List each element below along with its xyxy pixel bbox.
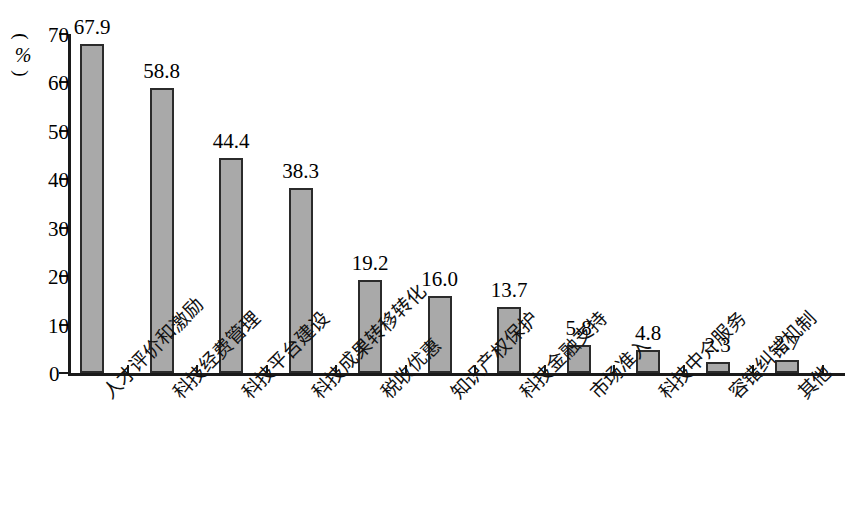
y-axis-tick-label: 0	[49, 364, 52, 385]
y-axis-tick-label: 40	[48, 170, 52, 191]
bar-chart-figure: ( % ) 010203040506070 67.958.844.438.319…	[0, 0, 848, 517]
x-axis-category-label: 人才评价和激励	[99, 389, 112, 402]
x-axis-category-label: 知识产权保护	[447, 389, 460, 402]
y-axis-tick-label: 10	[48, 315, 52, 336]
bar	[80, 44, 104, 373]
bar-value-label: 44.4	[213, 131, 250, 152]
bar-value-label: 19.2	[352, 253, 389, 274]
x-axis-category-label: 其他	[794, 389, 807, 402]
bar	[706, 362, 730, 373]
bar-value-label: 67.9	[74, 17, 111, 38]
x-axis-category-label: 科技经费管理	[169, 389, 182, 402]
x-axis-category-label: 容错纠错机制	[725, 389, 738, 402]
bar-value-label: 16.0	[421, 269, 458, 290]
bar-value-label: 38.3	[282, 161, 319, 182]
bar-value-label: 13.7	[491, 280, 528, 301]
bar-value-label: 58.8	[143, 61, 180, 82]
x-axis-category-label: 市场准入	[586, 389, 599, 402]
y-axis-tick-label: 30	[48, 218, 52, 239]
y-axis-label-percent-symbol: %	[15, 45, 32, 65]
y-axis-label: ( % )	[6, 18, 40, 92]
y-axis-label-open-paren: (	[15, 33, 30, 39]
y-axis-tick-label: 20	[48, 267, 52, 288]
x-axis-category-label: 科技成果转移转化	[308, 389, 321, 402]
y-axis-tick-label: 60	[48, 73, 52, 94]
y-axis-tick	[59, 372, 68, 374]
y-axis-tick-label: 70	[48, 25, 52, 46]
x-axis-category-label: 科技平台建设	[238, 389, 251, 402]
x-axis-category-label: 科技金融支持	[516, 389, 529, 402]
y-axis-label-close-paren: )	[15, 70, 30, 76]
x-axis-category-label: 税收优惠	[377, 389, 390, 402]
x-axis-category-label: 科技中介服务	[655, 389, 668, 402]
y-axis-tick-label: 50	[48, 121, 52, 142]
